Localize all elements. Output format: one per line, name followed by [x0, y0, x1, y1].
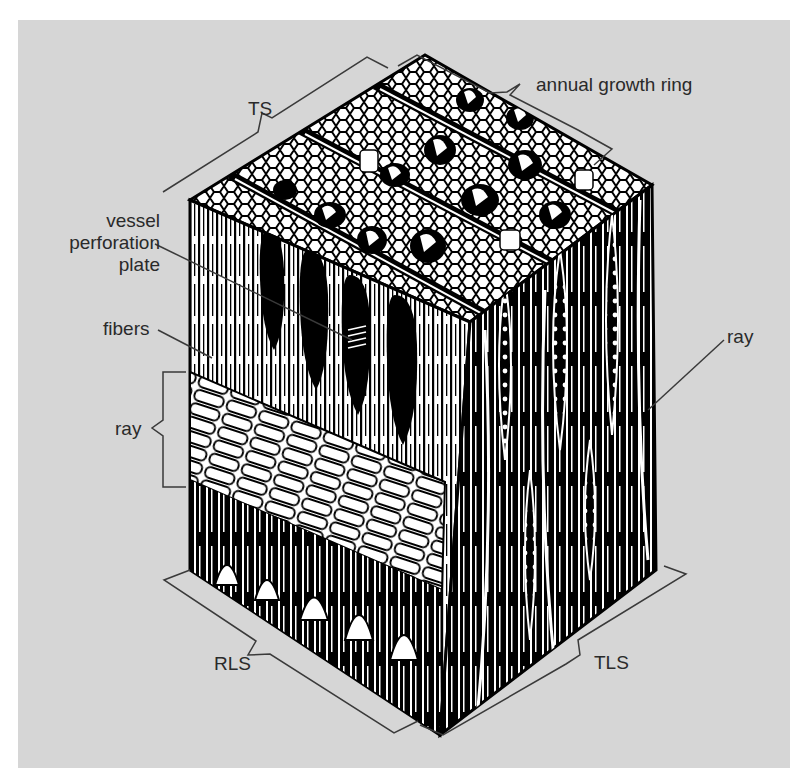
- label-vessel-perforation-plate: vessel perforation plate: [60, 210, 160, 276]
- label-ray-left: ray: [115, 418, 141, 440]
- label-rls: RLS: [214, 653, 251, 675]
- label-vessel-line: vessel: [60, 210, 160, 232]
- wood-block-illustration: [0, 0, 806, 781]
- label-annual-growth-ring: annual growth ring: [536, 74, 692, 96]
- ray-right-leader: [648, 340, 724, 410]
- label-ray-right: ray: [727, 326, 753, 348]
- label-ts: TS: [248, 98, 272, 120]
- label-perforation-line: perforation: [60, 232, 160, 254]
- ray-left-brace: [152, 372, 186, 487]
- label-fibers: fibers: [103, 318, 149, 340]
- label-plate-line: plate: [60, 254, 160, 276]
- label-tls: TLS: [594, 652, 629, 674]
